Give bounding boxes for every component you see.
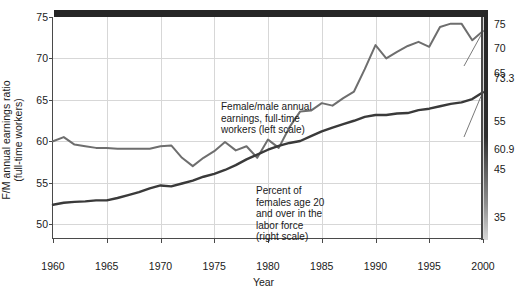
- y-axis-ticklabel-right: 75: [494, 18, 518, 30]
- x-axis-ticklabel: 1985: [310, 260, 333, 272]
- y-axis-ticklabel-left: 65: [26, 94, 48, 106]
- y-axis-ticklabel-left: 55: [26, 177, 48, 189]
- y-axis-ticklabel-right: 70: [494, 42, 518, 54]
- y-axis-ticklabel-left: 75: [26, 11, 48, 23]
- x-axis-ticklabel: 1995: [418, 260, 441, 272]
- y-axis-ticklabel-left: 70: [26, 52, 48, 64]
- x-axis-tick: [53, 239, 54, 243]
- x-axis-ticklabel: 1975: [203, 260, 226, 272]
- x-axis-ticklabel: 1965: [95, 260, 118, 272]
- data-label-laborforce-2000: 60.9: [494, 143, 514, 155]
- x-axis-ticklabel: 1960: [41, 260, 64, 272]
- plot-right-axis-line: [481, 17, 483, 240]
- x-axis-tick: [429, 239, 430, 243]
- chart-figure: F/M annual earnings ratio (full-time wor…: [0, 0, 527, 300]
- plot-area: 196019651970197519801985199019952000 Fem…: [52, 17, 482, 239]
- x-axis-title: Year: [0, 276, 527, 288]
- y-axis-ticklabel-left: 60: [26, 135, 48, 147]
- x-axis-ticklabel: 1970: [149, 260, 172, 272]
- x-axis-ticklabel: 1990: [364, 260, 387, 272]
- x-axis-ticklabel: 1980: [256, 260, 279, 272]
- x-axis-ticklabel: 2000: [471, 260, 494, 272]
- leader-line: [464, 96, 481, 137]
- x-axis-tick: [161, 239, 162, 243]
- gridline-vertical: [483, 17, 484, 238]
- y-axis-ticklabel-right: 35: [494, 211, 518, 223]
- x-axis-tick: [214, 239, 215, 243]
- y-axis-ticklabel-right: 55: [494, 115, 518, 127]
- data-label-leaders: [53, 17, 483, 239]
- x-axis-tick: [483, 239, 484, 243]
- y-axis-ticklabel-left: 50: [26, 218, 48, 230]
- y-axis-title-left: F/M annual earnings ratio (full-time wor…: [0, 40, 24, 240]
- x-axis-tick: [107, 239, 108, 243]
- x-axis-tick: [376, 239, 377, 243]
- data-label-earnings-2000: 73.3: [494, 72, 514, 84]
- y-axis-ticklabel-right: 45: [494, 163, 518, 175]
- leader-line: [464, 35, 481, 66]
